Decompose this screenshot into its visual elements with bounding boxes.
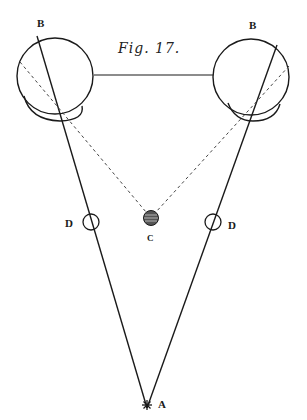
right-dashed-ray [156,66,289,212]
label-center-object-c: C [147,234,154,243]
label-left-lens-d: D [65,218,73,229]
left-visual-axis [37,36,147,408]
label-right-lens-d: D [228,220,236,231]
label-left-eye-b: B [37,18,44,29]
label-right-eye-b: B [249,20,256,31]
figure-17-diagram [0,0,307,420]
right-visual-axis [147,45,277,408]
left-eye [17,38,93,121]
center-object-ball [144,211,159,226]
figure-title: Fig. 17. [118,40,180,56]
label-apex-a: A [158,399,166,410]
right-eye [213,39,289,121]
apex-star-icon [142,400,152,410]
